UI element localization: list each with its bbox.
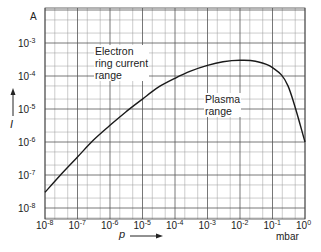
annotation-line: range bbox=[205, 105, 240, 117]
major-grid bbox=[45, 8, 305, 219]
x-tick-label: 10-8 bbox=[36, 220, 53, 231]
annotation-line: Electron bbox=[95, 45, 148, 57]
x-tick-label: 10-6 bbox=[101, 220, 118, 231]
y-axis-arrow-icon bbox=[11, 88, 16, 116]
y-tick-label: 10-8 bbox=[18, 203, 35, 214]
annotation-line: range bbox=[95, 69, 148, 81]
x-unit-label: mbar bbox=[276, 231, 299, 242]
x-tick-label: 100 bbox=[296, 220, 311, 231]
annotation-electron-ring-current: Electron ring current range bbox=[94, 45, 149, 81]
y-tick-label: 10-6 bbox=[18, 137, 35, 148]
x-axis-label: p bbox=[119, 229, 125, 240]
y-axis-label: I bbox=[10, 119, 13, 130]
annotation-line: Plasma bbox=[205, 93, 240, 105]
annotation-plasma-range: Plasma range bbox=[204, 93, 241, 117]
chart-canvas bbox=[0, 0, 321, 252]
x-axis-arrow-icon bbox=[130, 234, 163, 239]
x-tick-label: 10-3 bbox=[199, 220, 216, 231]
y-tick-label: 10-4 bbox=[18, 71, 35, 82]
x-tick-label: 10-2 bbox=[231, 220, 248, 231]
y-tick-label: 10-7 bbox=[18, 170, 35, 181]
x-tick-label: 10-4 bbox=[166, 220, 183, 231]
x-tick-label: 10-5 bbox=[134, 220, 151, 231]
x-tick-label: 10-1 bbox=[264, 220, 281, 231]
annotation-line: ring current bbox=[95, 57, 148, 69]
y-tick-label: 10-3 bbox=[18, 38, 35, 49]
x-tick-label: 10-7 bbox=[69, 220, 86, 231]
y-unit-label: A bbox=[30, 11, 37, 22]
y-tick-label: 10-5 bbox=[18, 104, 35, 115]
